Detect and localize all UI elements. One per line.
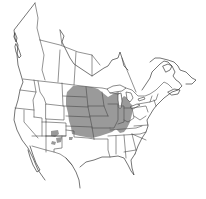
baja-coast xyxy=(28,146,40,172)
nevada-ca xyxy=(24,110,38,138)
gulf-coast xyxy=(66,154,135,188)
range-new-mexico-2 xyxy=(56,137,62,143)
canada-borders xyxy=(35,3,136,92)
nwt-south xyxy=(40,40,100,65)
lake-superior xyxy=(107,85,126,93)
utah-colorado xyxy=(42,119,46,136)
lake-ontario xyxy=(138,97,145,101)
alberta-sask xyxy=(58,50,60,82)
mexico-border xyxy=(32,146,72,165)
hudson-bay-coast xyxy=(60,30,128,76)
range-map xyxy=(0,0,206,199)
new-england xyxy=(150,94,158,106)
pacific-coast xyxy=(14,3,45,180)
range-panhandle xyxy=(69,137,73,140)
ark-la xyxy=(94,139,110,157)
idaho-montana xyxy=(38,81,46,104)
montana-dakota xyxy=(62,83,63,106)
quebec-coast xyxy=(150,58,196,84)
yukon-bc xyxy=(35,3,40,40)
atlantic-coast xyxy=(135,61,182,154)
sask-manitoba xyxy=(74,52,76,85)
gulf-st-lawrence xyxy=(163,64,172,72)
va-nc xyxy=(134,125,148,126)
nova-scotia xyxy=(168,89,180,95)
haida-gwaii xyxy=(14,33,17,42)
north-america-map xyxy=(0,0,206,199)
ms-al xyxy=(116,135,126,158)
tn-south xyxy=(108,132,146,136)
range-core xyxy=(66,86,133,138)
wa-or xyxy=(20,90,36,92)
range-new-mexico-3 xyxy=(51,141,56,145)
wyoming xyxy=(46,104,64,120)
bc-alberta xyxy=(40,40,45,80)
nevada-utah xyxy=(34,117,42,136)
ga-fl xyxy=(124,134,136,152)
or-ca xyxy=(15,108,34,110)
idaho-west xyxy=(33,80,36,117)
